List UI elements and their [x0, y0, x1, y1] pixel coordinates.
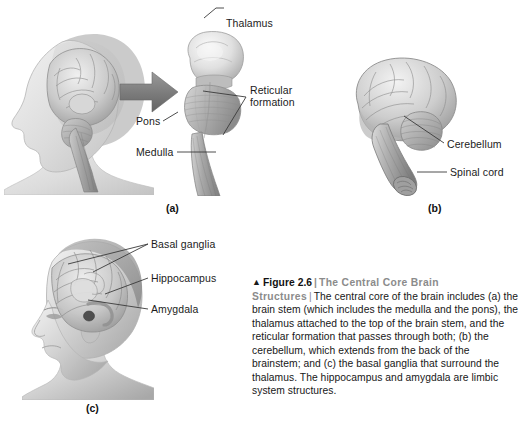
- caption-triangle-icon: ▲: [252, 277, 261, 287]
- caption-separator: |: [312, 277, 319, 288]
- caption-separator-2: |: [307, 291, 314, 302]
- label-basal-ganglia: Basal ganglia: [151, 238, 215, 250]
- label-amygdala: Amygdala: [151, 303, 199, 315]
- figure-2-6: Thalamus Reticular formation Pons Medull…: [0, 0, 526, 443]
- caption-figure-number: Figure 2.6: [263, 277, 312, 288]
- figure-caption: ▲Figure 2.6|The Central Core Brain Struc…: [252, 276, 520, 398]
- label-hippocampus: Hippocampus: [151, 272, 216, 284]
- caption-body: The central core of the brain includes (…: [252, 291, 518, 397]
- panel-letter-c: (c): [86, 402, 99, 414]
